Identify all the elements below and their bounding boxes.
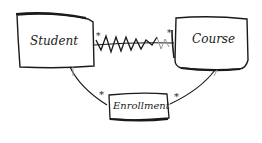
student-enrollment-relationship: * (70, 67, 107, 105)
student-course-relationship: * * (94, 28, 174, 58)
course-enrollment-multiplicity: * (174, 91, 179, 102)
student-course-multiplicity-right: * (167, 28, 172, 38)
course-enrollment-relationship: * (170, 70, 217, 104)
student-label: Student (30, 34, 78, 48)
student-enrollment-multiplicity: * (99, 89, 104, 100)
course-label: Course (192, 32, 235, 46)
enrollment-label: Enrollment (113, 100, 170, 111)
diagram-canvas: * * * * (0, 0, 262, 143)
student-course-multiplicity-left: * (96, 31, 101, 41)
